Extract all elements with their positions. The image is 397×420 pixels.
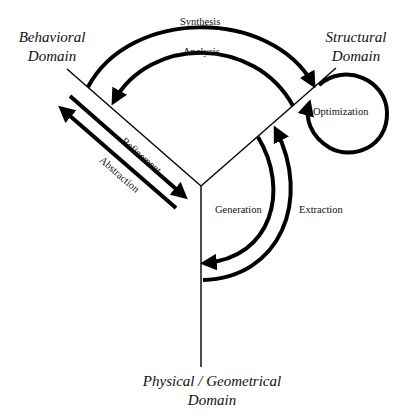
generation-label: Generation — [215, 204, 262, 215]
extraction-label: Extraction — [299, 204, 343, 215]
physical-domain-label: Physical / Geometrical Domain — [138, 372, 286, 410]
structural-label-line2: Domain — [316, 47, 396, 66]
behavioral-label-line1: Behavioral — [12, 28, 92, 47]
synthesis-arrow — [88, 27, 313, 87]
structural-axis — [201, 68, 336, 186]
behavioral-domain-label: Behavioral Domain — [12, 28, 92, 66]
physical-label-line1: Physical / Geometrical — [138, 372, 286, 391]
y-axes — [67, 68, 336, 367]
structural-domain-label: Structural Domain — [316, 28, 396, 66]
synthesis-label: Synthesis — [180, 16, 220, 27]
structural-label-line1: Structural — [316, 28, 396, 47]
generation-arrow — [205, 137, 273, 263]
physical-label-line2: Domain — [138, 391, 286, 410]
behavioral-label-line2: Domain — [12, 47, 92, 66]
abstraction-arrow — [62, 109, 176, 208]
analysis-label: Analysis — [183, 46, 220, 57]
optimization-label: Optimization — [313, 106, 368, 117]
analysis-arrow — [114, 53, 293, 106]
behavioral-axis — [67, 69, 201, 186]
